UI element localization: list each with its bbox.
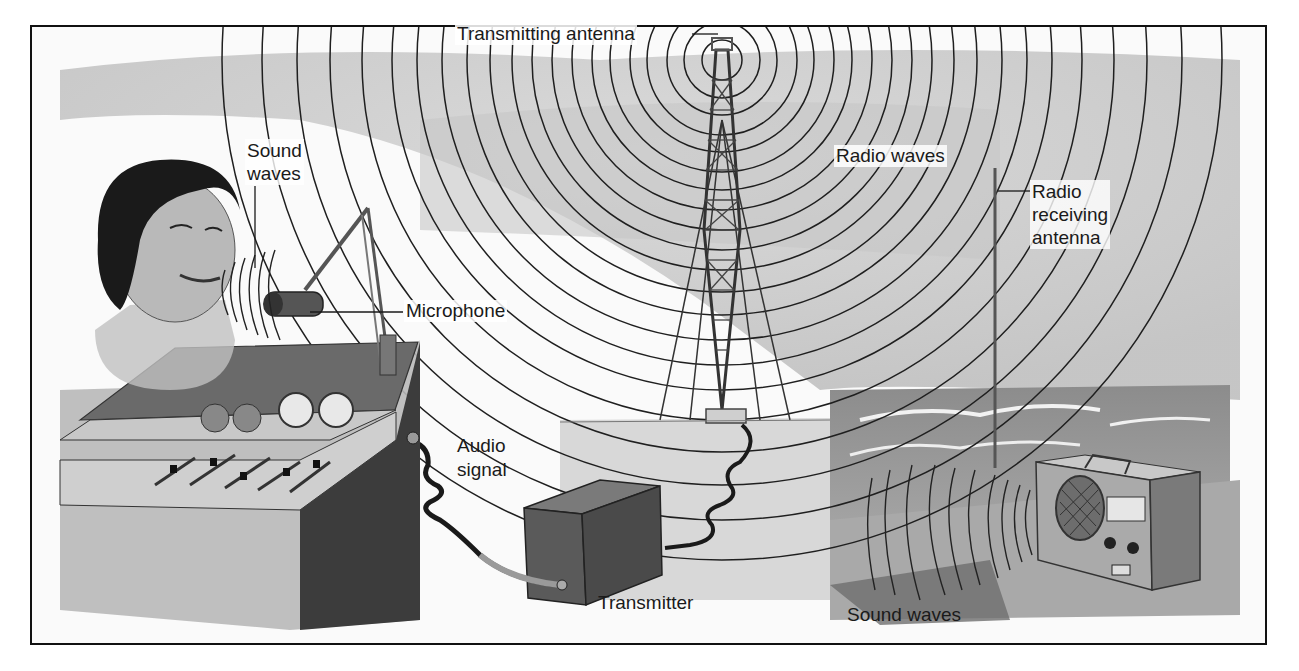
label-sound-waves-top: Sound waves xyxy=(245,139,304,185)
label-radio-receiving-antenna: Radio receiving antenna xyxy=(1030,180,1110,249)
label-radio-receiving-antenna-line1: Radio xyxy=(1032,180,1108,203)
label-audio-signal: Audio signal xyxy=(455,434,509,482)
label-audio-signal-line2: signal xyxy=(457,458,507,482)
label-audio-signal-line1: Audio xyxy=(457,434,507,458)
label-microphone: Microphone xyxy=(404,300,507,322)
label-sound-waves-bottom: Sound waves xyxy=(845,604,963,626)
label-radio-waves: Radio waves xyxy=(834,145,947,167)
label-sound-waves-top-line2: waves xyxy=(247,162,302,185)
label-transmitter: Transmitter xyxy=(596,592,695,614)
label-sound-waves-top-line1: Sound xyxy=(247,139,302,162)
label-transmitting-antenna: Transmitting antenna xyxy=(455,23,637,45)
announcer xyxy=(95,160,240,390)
mixing-console xyxy=(60,340,420,630)
illustration xyxy=(0,0,1299,671)
label-radio-receiving-antenna-line2: receiving xyxy=(1032,203,1108,226)
label-radio-receiving-antenna-line3: antenna xyxy=(1032,226,1108,249)
